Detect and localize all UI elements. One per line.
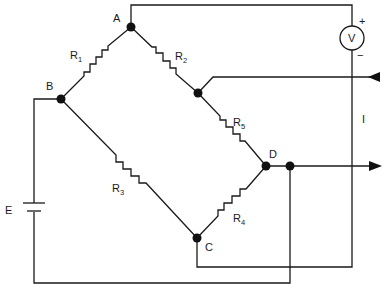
label-node-c: C <box>205 241 213 253</box>
label-r4: R4 <box>233 212 245 227</box>
wire-b-to-battery <box>34 99 61 203</box>
label-voltmeter-minus: − <box>357 49 363 61</box>
label-r2: R2 <box>175 50 187 65</box>
label-r3: R3 <box>112 182 124 197</box>
node-c <box>193 234 202 243</box>
node-b <box>57 95 66 104</box>
arrow-left-icon <box>368 72 380 82</box>
label-battery: E <box>5 204 12 216</box>
label-voltmeter-plus: + <box>359 15 365 27</box>
label-r1: R1 <box>70 49 82 64</box>
label-node-b: B <box>46 80 53 92</box>
resistor-r1 <box>61 27 131 99</box>
resistor-r4 <box>197 166 266 238</box>
resistor-r5 <box>198 93 266 166</box>
node-d-junction <box>286 162 295 171</box>
node-r2-r5 <box>194 89 203 98</box>
arrow-right-icon <box>369 161 382 171</box>
circuit-svg: A B C D R1 R2 R3 R4 R5 V + − E I <box>0 0 385 297</box>
node-d <box>262 162 271 171</box>
node-a <box>127 23 136 32</box>
circuit-diagram: A B C D R1 R2 R3 R4 R5 V + − E I <box>0 0 385 297</box>
label-node-a: A <box>113 12 121 24</box>
label-node-d: D <box>269 148 277 160</box>
label-current: I <box>362 113 365 125</box>
wire-node-to-top-output <box>198 77 372 93</box>
label-voltmeter: V <box>348 32 356 44</box>
resistor-r3 <box>61 99 197 238</box>
label-r5: R5 <box>233 116 245 131</box>
resistor-r2 <box>131 27 198 93</box>
wire-a-to-voltmeter <box>131 5 352 27</box>
